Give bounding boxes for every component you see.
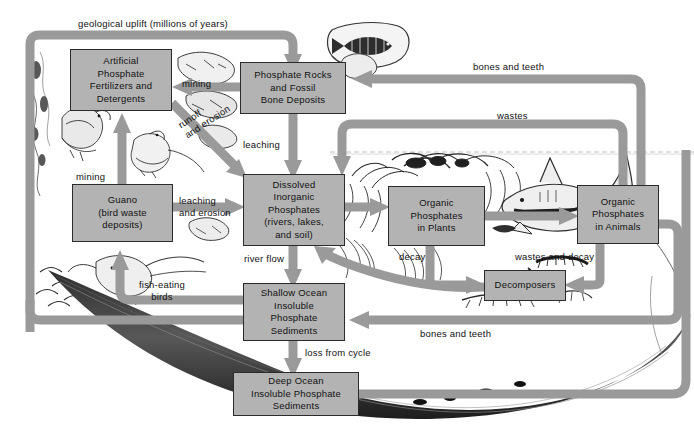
box-guano-bird-waste-deposits[interactable]: Guano (bird waste deposits) [72,184,173,242]
label-fish-eating-birds: fish-eating birds [122,279,202,303]
seabird-sketch-upper [62,107,110,161]
label-geological-uplift: geological uplift (millions of years) [78,18,228,30]
label-leaching-rocks: leaching [243,139,280,151]
label-loss-from-cycle: loss from cycle [305,347,371,359]
label-mining-guano: mining [76,171,105,183]
label-mining-rocks: mining [182,78,211,90]
box-organic-phosphates-in-animals[interactable]: Organic Phosphates in Animals [577,185,659,244]
box-dissolved-inorganic-phosphates[interactable]: Dissolved Inorganic Phosphates (rivers, … [243,174,345,246]
label-bones-and-teeth-top: bones and teeth [473,61,544,73]
box-phosphate-rocks-fossil-bone-deposits[interactable]: Phosphate Rocks and Fossil Bone Deposits [240,62,346,114]
box-deep-ocean-insoluble-phosphate-sediments[interactable]: Deep Ocean Insoluble Phosphate Sediments [233,372,359,416]
label-decay: decay [399,251,425,263]
label-wastes-and-decay: wastes and decay [515,251,594,263]
phosphorus-cycle-figure: Artificial Phosphate Fertilizers and Det… [0,0,694,443]
flow-bones-teeth-rocks [366,79,641,185]
label-bones-and-teeth-bottom: bones and teeth [420,328,491,340]
label-river-flow: river flow [244,253,284,265]
label-leaching-and-erosion: leaching and erosion [179,195,231,219]
box-organic-phosphates-in-plants[interactable]: Organic Phosphates in Plants [388,186,485,246]
box-shallow-ocean-insoluble-phosphate-sediments[interactable]: Shallow Ocean Insoluble Phosphate Sedime… [243,283,345,341]
label-wastes: wastes [497,110,528,122]
box-decomposers[interactable]: Decomposers [484,270,566,301]
box-artificial-phosphate-fertilizers[interactable]: Artificial Phosphate Fertilizers and Det… [70,49,172,111]
